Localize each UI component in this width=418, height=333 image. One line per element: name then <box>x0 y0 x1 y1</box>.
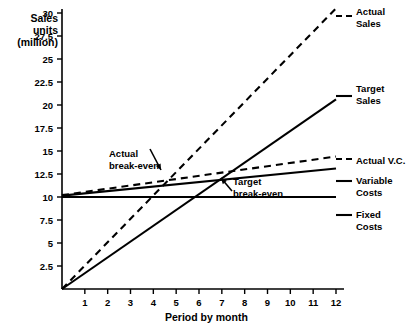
series-line-variable-costs <box>62 168 336 195</box>
x-tick-label: 2 <box>105 297 110 308</box>
legend-item-target-sales: Target Sales <box>356 83 384 106</box>
annotation-actual-break-even: Actual break-even <box>109 148 159 171</box>
y-tick-label: 15 <box>42 146 53 157</box>
chart-figure: Sales units (million) 2.557.51012.51517.… <box>0 0 418 333</box>
y-tick-label: 25 <box>42 54 53 65</box>
y-tick-label: 22.5 <box>35 77 54 88</box>
x-tick-label: 12 <box>331 297 342 308</box>
y-tick-label: 7.5 <box>40 215 54 226</box>
legend-item-actual-vc: Actual V.C. <box>356 155 405 167</box>
chart-plot-area: 2.557.51012.51517.52022.52527.5301234567… <box>0 0 418 333</box>
x-tick-label: 8 <box>242 297 247 308</box>
x-tick-label: 1 <box>82 297 88 308</box>
x-tick-label: 11 <box>308 297 319 308</box>
series-line-actual-v-c <box>62 157 336 196</box>
x-tick-label: 3 <box>128 297 133 308</box>
x-tick-label: 10 <box>285 297 296 308</box>
x-tick-label: 7 <box>219 297 224 308</box>
y-tick-label: 10 <box>42 192 53 203</box>
x-axis-title: Period by month <box>165 311 248 323</box>
x-tick-label: 5 <box>174 297 180 308</box>
annotation-target-break-even: Target break-even <box>233 176 283 199</box>
y-tick-label: 30 <box>42 8 53 19</box>
y-tick-label: 17.5 <box>35 123 54 134</box>
x-tick-label: 4 <box>151 297 157 308</box>
y-tick-label: 2.5 <box>40 261 54 272</box>
legend-item-fixed-costs: Fixed Costs <box>356 209 382 232</box>
legend-item-variable-costs: Variable Costs <box>356 175 392 198</box>
y-tick-label: 5 <box>48 238 54 249</box>
y-tick-label: 12.5 <box>35 169 54 180</box>
x-tick-label: 9 <box>265 297 270 308</box>
y-tick-label: 20 <box>42 100 53 111</box>
y-tick-label: 27.5 <box>35 31 54 42</box>
x-tick-label: 6 <box>196 297 201 308</box>
legend-item-actual-sales: Actual Sales <box>356 6 385 29</box>
series-line-actual-sales <box>62 8 336 289</box>
series-line-target-sales <box>62 99 336 289</box>
